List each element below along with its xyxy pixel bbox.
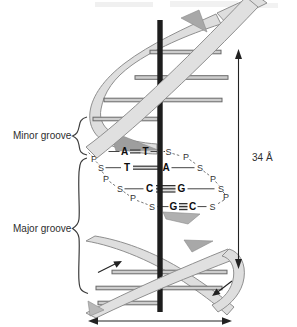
- base-adenine: A: [162, 162, 169, 173]
- lower-helix-front-ribbon: [86, 249, 244, 318]
- rise-dimension-arrow: 34 Å: [235, 49, 273, 269]
- base-adenine: A: [121, 146, 128, 157]
- backbone-dashes-right: [173, 154, 226, 205]
- helix-axis-rod: [157, 20, 162, 312]
- arrowhead-left: [88, 317, 98, 324]
- minor-groove-annotation: Minor groove: [13, 117, 87, 155]
- major-groove-brace: [73, 158, 89, 294]
- base-cytosine: C: [146, 183, 153, 194]
- minor-groove-brace: [73, 117, 88, 155]
- minor-groove-label: Minor groove: [13, 130, 72, 141]
- twist-shade-wedge: [184, 240, 213, 252]
- base-thymine: T: [124, 162, 130, 173]
- base-guanine: G: [178, 183, 186, 194]
- base-thymine: T: [142, 146, 148, 157]
- dna-double-helix-figure: P S P S P S S P S P S P S A T T A C G G …: [0, 0, 297, 327]
- sugar-label: S: [117, 184, 123, 194]
- width-dimension-arrow: [88, 317, 232, 324]
- phosphate-label: P: [223, 192, 229, 202]
- phosphate-label: P: [210, 174, 216, 184]
- phosphate-label: P: [130, 193, 136, 203]
- arrowhead-right: [222, 317, 232, 324]
- major-groove-label: Major groove: [13, 223, 72, 234]
- twist-shade-wedge: [163, 212, 200, 224]
- sugar-label: S: [197, 163, 203, 173]
- sugar-label: S: [149, 202, 155, 212]
- base-cytosine: C: [189, 201, 196, 212]
- sugar-label: S: [98, 163, 104, 173]
- backbone-dashes-left: [89, 153, 148, 205]
- base-pair-row: [158, 204, 207, 210]
- rise-label: 34 Å: [252, 151, 273, 163]
- base-guanine: G: [170, 201, 178, 212]
- major-groove-annotation: Major groove: [13, 158, 88, 294]
- sugar-label: S: [165, 147, 171, 157]
- phosphate-label: P: [103, 174, 109, 184]
- sugar-label: S: [209, 202, 215, 212]
- base-pair-row: [125, 186, 215, 192]
- base-pair-row: [106, 166, 195, 169]
- arrowhead-up: [235, 49, 242, 59]
- phosphate-label: P: [183, 152, 189, 162]
